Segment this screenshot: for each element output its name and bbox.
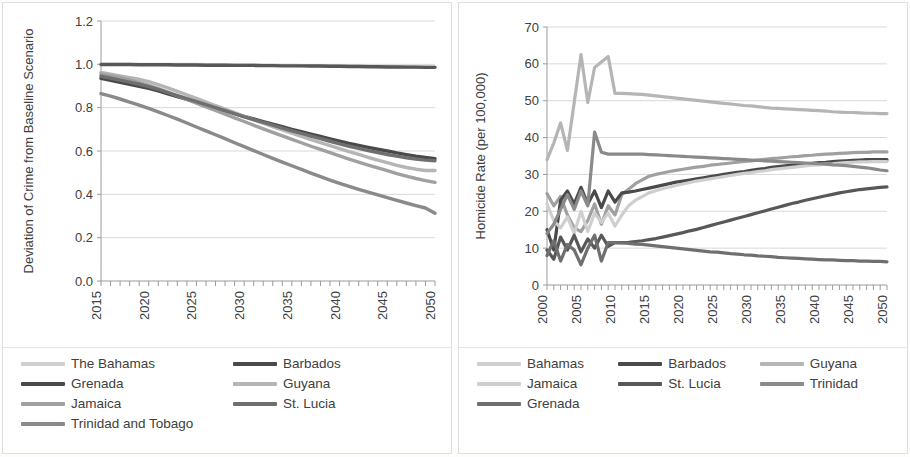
right-legend-item-grenada[interactable]: Grenada [477, 396, 620, 411]
legend-item-label: Jamaica [71, 396, 121, 411]
y-tick-label: 0.2 [75, 230, 93, 245]
y-tick-label: 20 [525, 204, 539, 219]
y-tick-label: 0 [532, 278, 539, 293]
legend-swatch-icon [760, 362, 804, 366]
legend-item-label: Trinidad and Tobago [71, 416, 193, 431]
legend-item-label: Barbados [668, 356, 726, 371]
series-line-st-lucia [101, 76, 435, 161]
homicide-rate-legend-area: BahamasBarbadosGuyanaJamaicaSt. LuciaTri… [459, 347, 907, 453]
x-tick-label: 2030 [232, 291, 247, 320]
legend-item-label: St. Lucia [668, 376, 721, 391]
series-line-grenada [101, 78, 435, 158]
y-tick-label: 50 [525, 93, 539, 108]
x-tick-label: 2010 [603, 295, 618, 324]
x-tick-label: 2045 [841, 295, 856, 324]
y-tick-label: 0.4 [75, 187, 93, 202]
homicide-rate-panel: Homicide Rate (per 100,000)0102030405060… [458, 2, 908, 454]
legend-rows: BahamasBarbadosGuyanaJamaicaSt. LuciaTri… [477, 356, 901, 411]
legend-swatch-icon [21, 362, 65, 366]
legend-swatch-icon [21, 382, 65, 386]
x-tick-label: 2040 [328, 291, 343, 320]
legend-rows: The BahamasBarbadosGrenadaGuyanaJamaicaS… [21, 356, 445, 431]
legend-row: Trinidad and Tobago [21, 416, 445, 431]
legend-item-label: Bahamas [527, 356, 584, 371]
y-tick-label: 30 [525, 167, 539, 182]
homicide-rate-chart-svg: Homicide Rate (per 100,000)0102030405060… [459, 3, 909, 343]
x-tick-label: 2020 [671, 295, 686, 324]
left-legend-item-trinidad-and-tobago[interactable]: Trinidad and Tobago [21, 416, 236, 431]
right-legend-item-trinidad[interactable]: Trinidad [760, 376, 901, 391]
legend-swatch-icon [233, 382, 277, 386]
y-tick-label: 0.8 [75, 100, 93, 115]
legend-item-label: Grenada [71, 376, 124, 391]
x-tick-label: 2030 [739, 295, 754, 324]
y-tick-label: 40 [525, 130, 539, 145]
legend-item-label: Trinidad [810, 376, 858, 391]
right-legend-item-bahamas[interactable]: Bahamas [477, 356, 618, 371]
y-axis-title: Deviation of Crime from Baseline Scenari… [21, 29, 36, 274]
series-line-barbados [547, 160, 887, 250]
y-tick-label: 60 [525, 56, 539, 71]
figure-root: Deviation of Crime from Baseline Scenari… [0, 0, 910, 457]
legend-item-label: The Bahamas [71, 356, 155, 371]
legend-row: The BahamasBarbados [21, 356, 445, 371]
left-legend-item-grenada[interactable]: Grenada [21, 376, 233, 391]
deviation-of-crime-plot-area: Deviation of Crime from Baseline Scenari… [3, 3, 451, 343]
homicide-rate-legend: BahamasBarbadosGuyanaJamaicaSt. LuciaTri… [459, 347, 907, 453]
legend-item-label: St. Lucia [283, 396, 336, 411]
legend-row: JamaicaSt. Lucia [21, 396, 445, 411]
y-tick-label: 1.2 [75, 14, 93, 29]
legend-swatch-icon [618, 382, 662, 386]
legend-swatch-icon [233, 402, 277, 406]
x-tick-label: 2025 [705, 295, 720, 324]
legend-swatch-icon [477, 382, 521, 386]
x-tick-label: 2035 [280, 291, 295, 320]
y-axis-title: Homicide Rate (per 100,000) [473, 73, 488, 240]
deviation-of-crime-chart-svg: Deviation of Crime from Baseline Scenari… [3, 3, 453, 343]
legend-item-label: Barbados [283, 356, 341, 371]
legend-item-label: Grenada [527, 396, 580, 411]
x-tick-label: 2015 [89, 291, 104, 320]
left-legend-item-jamaica[interactable]: Jamaica [21, 396, 233, 411]
legend-swatch-icon [477, 402, 521, 406]
x-tick-label: 2040 [807, 295, 822, 324]
y-tick-label: 0.6 [75, 144, 93, 159]
right-legend-item-st-lucia[interactable]: St. Lucia [618, 376, 759, 391]
right-legend-item-jamaica[interactable]: Jamaica [477, 376, 618, 391]
legend-swatch-icon [477, 362, 521, 366]
deviation-of-crime-legend-area: The BahamasBarbadosGrenadaGuyanaJamaicaS… [3, 347, 451, 453]
legend-swatch-icon [618, 362, 662, 366]
legend-swatch-icon [760, 382, 804, 386]
legend-item-label: Guyana [283, 376, 330, 391]
x-tick-label: 2020 [137, 291, 152, 320]
right-legend-item-barbados[interactable]: Barbados [618, 356, 759, 371]
x-tick-label: 2025 [184, 291, 199, 320]
legend-row: GrenadaGuyana [21, 376, 445, 391]
x-tick-label: 2045 [375, 291, 390, 320]
legend-swatch-icon [233, 362, 277, 366]
homicide-rate-plot-area: Homicide Rate (per 100,000)0102030405060… [459, 3, 907, 343]
deviation-of-crime-legend: The BahamasBarbadosGrenadaGuyanaJamaicaS… [3, 347, 451, 453]
left-legend-item-guyana[interactable]: Guyana [233, 376, 445, 391]
left-legend-item-st-lucia[interactable]: St. Lucia [233, 396, 445, 411]
right-legend-item-guyana[interactable]: Guyana [760, 356, 901, 371]
deviation-of-crime-panel: Deviation of Crime from Baseline Scenari… [2, 2, 452, 454]
legend-swatch-icon [21, 402, 65, 406]
x-tick-label: 2050 [423, 291, 438, 320]
legend-swatch-icon [21, 422, 65, 426]
legend-item-label: Guyana [810, 356, 857, 371]
y-tick-label: 70 [525, 20, 539, 35]
legend-item-label: Jamaica [527, 376, 577, 391]
x-tick-label: 2000 [535, 295, 550, 324]
y-tick-label: 0.0 [75, 274, 93, 289]
legend-row: Grenada [477, 396, 901, 411]
left-legend-item-the-bahamas[interactable]: The Bahamas [21, 356, 233, 371]
legend-row: JamaicaSt. LuciaTrinidad [477, 376, 901, 391]
x-tick-label: 2035 [773, 295, 788, 324]
legend-row: BahamasBarbadosGuyana [477, 356, 901, 371]
x-tick-label: 2005 [569, 295, 584, 324]
x-tick-label: 2015 [637, 295, 652, 324]
y-tick-label: 1.0 [75, 57, 93, 72]
x-tick-label: 2050 [875, 295, 890, 324]
left-legend-item-barbados[interactable]: Barbados [233, 356, 445, 371]
